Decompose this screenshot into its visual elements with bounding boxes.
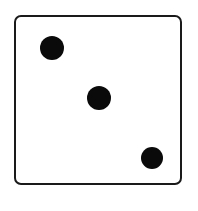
pip-dot-icon (87, 86, 111, 110)
pip-dot-icon (40, 36, 64, 60)
pip-dot-icon (141, 147, 163, 169)
